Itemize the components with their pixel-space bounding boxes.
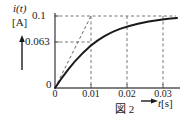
x-tick-label-0-01: 0.01: [82, 88, 100, 99]
tangent-line: [55, 16, 91, 88]
x-tick-label-0-02: 0.02: [118, 88, 136, 99]
x-tick-label-0: 0: [53, 88, 58, 99]
x-axis-unit-label: [s]: [161, 97, 173, 109]
figure-caption: 図 2: [115, 104, 134, 115]
y-tick-label-max: 0.1: [32, 10, 46, 21]
figure-container: i(t) [A] 0.1 0.063 0 0 0.01 0.02 0.03 t[…: [0, 0, 186, 123]
y-axis-unit-label: [A]: [12, 17, 27, 28]
right-arrow-icon: [141, 98, 158, 103]
current-curve: [55, 18, 177, 88]
origin-label: 0: [46, 79, 52, 90]
y-tick-label-tau: 0.063: [25, 36, 50, 47]
x-axis-label: t[s]: [158, 98, 173, 109]
up-arrow-icon: [19, 35, 25, 70]
y-axis-symbol-label: i(t): [13, 3, 26, 14]
